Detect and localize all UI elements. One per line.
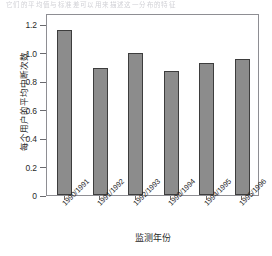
y-axis-tick-label: 1.2 xyxy=(0,21,37,29)
bar xyxy=(57,30,72,195)
bar-chart-figure: 它们的平均值与标准差可以用来描述这一分布的特征 每个用户的平均中断次数 00.2… xyxy=(0,0,272,256)
bar xyxy=(164,71,179,195)
y-axis-tick-label: 0.8 xyxy=(0,78,37,86)
y-axis-tick-label: 0.2 xyxy=(0,164,37,172)
y-axis-title: 每个用户的平均中断次数 xyxy=(19,21,29,181)
x-axis-title: 监测年份 xyxy=(46,233,259,244)
bar xyxy=(128,53,143,195)
bar xyxy=(235,59,250,196)
page-text-fragment: 它们的平均值与标准差可以用来描述这一分布的特征 xyxy=(6,1,268,9)
y-axis-tick-label: 0.6 xyxy=(0,107,37,115)
y-axis-tick-label: 0 xyxy=(0,192,37,200)
y-axis-tick-label: 1.0 xyxy=(0,50,37,58)
plot-frame xyxy=(46,14,259,196)
bar xyxy=(93,68,108,195)
bar xyxy=(199,63,214,195)
plot-area xyxy=(47,15,258,195)
y-axis-tick-label: 0.4 xyxy=(0,135,37,143)
